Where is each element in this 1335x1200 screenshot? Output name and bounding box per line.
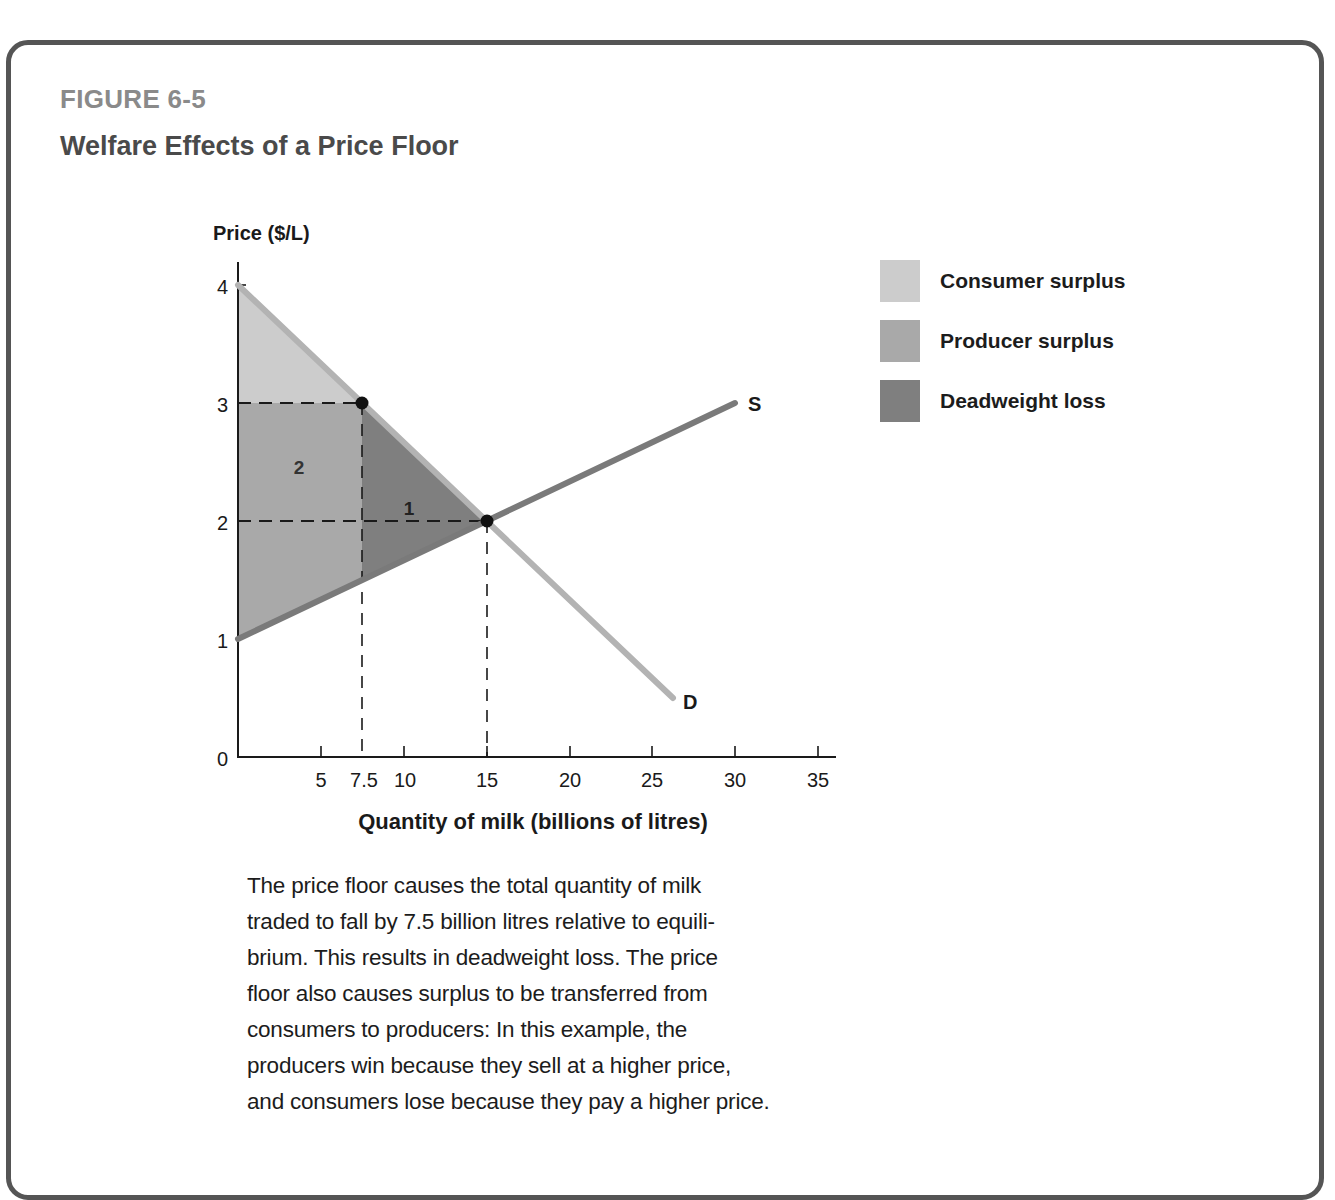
y-axis-label: Price ($/L) xyxy=(213,222,310,244)
svg-text:20: 20 xyxy=(559,769,581,791)
legend-item-deadweight-loss: Deadweight loss xyxy=(880,380,1126,422)
region-label-1: 1 xyxy=(404,498,415,519)
svg-text:2: 2 xyxy=(217,512,228,534)
svg-text:1: 1 xyxy=(217,630,228,652)
svg-text:4: 4 xyxy=(217,276,228,298)
legend-item-consumer-surplus: Consumer surplus xyxy=(880,260,1126,302)
deadweight-loss-swatch xyxy=(880,380,920,422)
svg-text:15: 15 xyxy=(476,769,498,791)
supply-label: S xyxy=(748,393,761,415)
y-tick-labels: 4 3 2 1 0 xyxy=(217,276,228,770)
svg-text:10: 10 xyxy=(394,769,416,791)
demand-label: D xyxy=(683,691,697,713)
svg-text:25: 25 xyxy=(641,769,663,791)
svg-text:35: 35 xyxy=(807,769,829,791)
consumer-surplus-swatch xyxy=(880,260,920,302)
x-axis-label: Quantity of milk (billions of litres) xyxy=(358,809,708,834)
x-ticks xyxy=(321,746,818,757)
svg-text:5: 5 xyxy=(315,769,326,791)
svg-text:30: 30 xyxy=(724,769,746,791)
region-label-2: 2 xyxy=(294,457,305,478)
price-floor-point xyxy=(356,397,369,410)
svg-text:7.5: 7.5 xyxy=(350,769,378,791)
equilibrium-point xyxy=(481,515,494,528)
producer-surplus-swatch xyxy=(880,320,920,362)
svg-text:0: 0 xyxy=(217,748,228,770)
legend: Consumer surplus Producer surplus Deadwe… xyxy=(880,260,1126,440)
x-tick-labels: 5 7.5 10 15 20 25 30 35 xyxy=(315,769,829,791)
legend-item-producer-surplus: Producer surplus xyxy=(880,320,1126,362)
figure-caption: The price floor causes the total quantit… xyxy=(247,868,847,1120)
svg-text:3: 3 xyxy=(217,394,228,416)
